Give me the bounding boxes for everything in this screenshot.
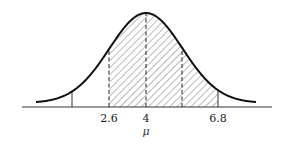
normal-curve-diagram: 2.6 4 6.8 μ <box>0 0 286 146</box>
tick-label-2-6: 2.6 <box>100 112 118 125</box>
tick-label-6-8: 6.8 <box>209 112 227 125</box>
tick-label-4: 4 <box>143 112 150 125</box>
mean-symbol: μ <box>142 125 149 138</box>
